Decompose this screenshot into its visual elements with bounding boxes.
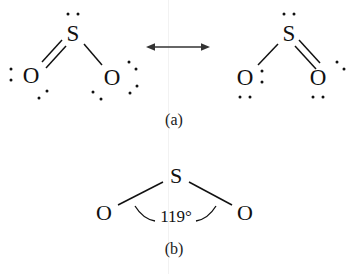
lone-pair-dot-oxygen-right bbox=[322, 96, 325, 99]
lone-pair-dot-oxygen-right bbox=[336, 61, 339, 64]
lone-pair-dot-oxygen-left bbox=[38, 97, 41, 100]
oxygen-atom-left-of-right-structure: O bbox=[237, 66, 254, 89]
figure-strokes bbox=[0, 0, 351, 274]
panel-caption-b: (b) bbox=[165, 241, 184, 257]
sulfur-atom-left-structure: S bbox=[67, 22, 80, 45]
single-bond-s-o-left-right-structure bbox=[258, 44, 278, 65]
lone-pair-dot-oxygen-left bbox=[261, 81, 264, 84]
lone-pair-dot-oxygen-right bbox=[135, 68, 138, 71]
lone-pair-dot-oxygen-right bbox=[129, 92, 132, 95]
single-bond-s-o-right bbox=[84, 44, 102, 65]
lone-pair-dot-oxygen-left bbox=[10, 79, 13, 82]
bond-s-o-right-geometry bbox=[189, 182, 232, 205]
lone-pair-dot-oxygen-left bbox=[249, 96, 252, 99]
lone-pair-dot-oxygen-right bbox=[136, 85, 139, 88]
oxygen-atom-left-geometry: O bbox=[96, 202, 112, 224]
resonance-arrow bbox=[146, 43, 210, 51]
oxygen-atom-right-geometry: O bbox=[237, 202, 253, 224]
oxygen-atom-right-of-right-structure: O bbox=[310, 66, 327, 89]
lone-pair-dot-sulfur bbox=[77, 13, 80, 16]
lone-pair-dot-oxygen-right bbox=[312, 96, 315, 99]
lone-pair-dot-sulfur bbox=[293, 13, 296, 16]
oxygen-atom-left-of-left-structure: O bbox=[23, 64, 40, 87]
sulfur-atom-geometry: S bbox=[170, 165, 182, 187]
lone-pair-dot-sulfur bbox=[67, 13, 70, 16]
lone-pair-dot-oxygen-left bbox=[261, 70, 264, 73]
sulfur-atom-right-structure: S bbox=[283, 22, 296, 45]
bond-angle-label: 119° bbox=[160, 208, 192, 225]
lone-pair-dot-oxygen-right bbox=[343, 68, 346, 71]
lone-pair-dot-oxygen-right bbox=[92, 91, 95, 94]
lone-pair-dot-sulfur bbox=[283, 13, 286, 16]
oxygen-atom-right-of-left-structure: O bbox=[104, 66, 121, 89]
lone-pair-dot-oxygen-right bbox=[128, 61, 131, 64]
lone-pair-dot-oxygen-right bbox=[100, 98, 103, 101]
bond-s-o-left-geometry bbox=[118, 182, 163, 205]
double-bond-s-o-left bbox=[42, 40, 66, 68]
lone-pair-dot-oxygen-left bbox=[46, 90, 49, 93]
so2-lewis-structure-figure: S O O S O O (a) S O O 119° (b) bbox=[0, 0, 351, 274]
lone-pair-dot-oxygen-left bbox=[239, 96, 242, 99]
lone-pair-dot-oxygen-left bbox=[10, 68, 13, 71]
panel-caption-a: (a) bbox=[165, 112, 183, 128]
